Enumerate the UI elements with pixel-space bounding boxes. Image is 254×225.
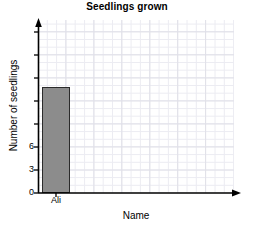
y-tick-label-6: 6 — [18, 142, 34, 151]
chart-title: Seedlings grown — [0, 1, 254, 12]
y-tick-label-0: 0 — [18, 188, 34, 197]
x-axis-title: Name — [38, 210, 234, 221]
bar-chart: Seedlings grown — [0, 0, 254, 225]
y-axis-title: Number of seedlings — [8, 41, 19, 171]
x-tick-label-ali: Ali — [36, 195, 76, 205]
bar-ali[interactable] — [42, 87, 70, 193]
y-tick-label-3: 3 — [18, 165, 34, 174]
bars-layer — [38, 20, 234, 193]
